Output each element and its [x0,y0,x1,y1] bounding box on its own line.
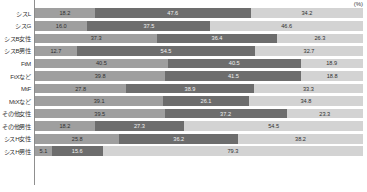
bar-segment: 18.2 [35,121,95,131]
bar-segment: 18.8 [301,71,363,81]
bar-segment: 26.1 [163,96,249,106]
bar-segment: 37.5 [87,21,210,31]
stacked-bar-chart: (%) シスL18.247.634.2シスG16.037.546.6シスB女性3… [0,0,367,192]
bar-segment-value: 37.5 [143,23,154,29]
bar-segment: 39.1 [35,96,163,106]
bar-segment-value: 38.9 [185,86,196,92]
bar-segment: 27.8 [35,84,126,94]
category-label: シスH女性 [0,135,34,142]
bar-segment: 26.3 [277,34,363,44]
bar-segment: 40.5 [35,59,168,69]
bar-segment: 18.9 [301,59,363,69]
bar-segment-value: 54.5 [161,48,172,54]
stacked-bar: 5.115.679.3 [34,146,363,156]
stacked-bar: 16.037.546.6 [34,21,363,31]
bar-segment: 23.3 [287,109,363,119]
chart-row: MtXなど39.126.134.8 [0,95,367,108]
bar-segment: 36.4 [157,34,276,44]
bar-segment-value: 27.8 [75,86,86,92]
chart-row: MtF27.838.933.3 [0,82,367,95]
chart-row: シスH女性25.836.238.2 [0,132,367,145]
bar-segment: 16.0 [35,21,87,31]
bar-segment-value: 34.8 [300,98,311,104]
bar-segment-value: 12.7 [50,48,61,54]
bar-segment-value: 36.4 [212,35,223,41]
bar-segment-value: 46.6 [281,23,292,29]
bar-segment: 39.8 [35,71,165,81]
chart-row: FtXなど39.841.518.8 [0,70,367,83]
bar-segment: 37.2 [165,109,287,119]
bar-segment: 54.5 [77,46,256,56]
bar-segment-value: 5.1 [39,148,47,154]
stacked-bar: 39.841.518.8 [34,71,363,81]
stacked-bar: 18.227.354.5 [34,121,363,131]
stacked-bar: 37.336.426.3 [34,34,363,44]
bar-segment: 32.7 [255,46,362,56]
bar-segment-value: 16.0 [56,23,67,29]
chart-row: その他女性39.537.223.3 [0,107,367,120]
bar-segment: 47.6 [95,8,251,18]
bar-segment-value: 18.2 [59,10,70,16]
bar-segment-value: 54.5 [268,123,279,129]
stacked-bar: 39.537.223.3 [34,109,363,119]
bar-segment-value: 39.5 [94,111,105,117]
bar-segment-value: 40.5 [229,60,240,66]
bar-segment-value: 27.3 [134,123,145,129]
bar-segment: 5.1 [35,146,52,156]
category-label: その他女性 [0,110,34,117]
category-label: シスG [0,22,34,29]
stacked-bar: 39.126.134.8 [34,96,363,106]
bar-segment-value: 38.2 [295,136,306,142]
stacked-bar: 18.247.634.2 [34,8,363,18]
plot-area: シスL18.247.634.2シスG16.037.546.6シスB女性37.33… [0,7,367,192]
chart-row: シスB男性12.754.532.7 [0,45,367,58]
bar-segment-value: 39.8 [95,73,106,79]
bar-segment-value: 41.5 [228,73,239,79]
category-label: FtM [0,60,34,67]
bar-segment-value: 18.9 [326,60,337,66]
bar-segment: 38.9 [126,84,254,94]
bar-segment: 37.3 [35,34,157,44]
chart-row: シスH男性5.115.679.3 [0,145,367,158]
bar-segment-value: 32.7 [304,48,315,54]
category-label: シスB男性 [0,47,34,54]
stacked-bar: 25.836.238.2 [34,134,363,144]
category-label: シスB女性 [0,35,34,42]
bar-segment: 27.3 [95,121,185,131]
stacked-bar: 12.754.532.7 [34,46,363,56]
chart-row: FtM40.540.518.9 [0,57,367,70]
bar-segment-value: 23.3 [319,111,330,117]
category-label: MtF [0,85,34,92]
bar-segment-value: 39.1 [94,98,105,104]
bar-segment-value: 33.3 [303,86,314,92]
bar-segment: 15.6 [52,146,103,156]
chart-row: その他男性18.227.354.5 [0,120,367,133]
bar-segment-value: 79.3 [227,148,238,154]
chart-row: シスB女性37.336.426.3 [0,32,367,45]
bar-segment: 41.5 [165,71,301,81]
category-label: その他男性 [0,123,34,130]
bar-segment: 18.2 [35,8,95,18]
bar-segment: 25.8 [35,134,119,144]
category-label: シスL [0,10,34,17]
bar-segment-value: 15.6 [72,148,83,154]
bar-segment: 46.6 [210,21,363,31]
chart-row: シスL18.247.634.2 [0,7,367,20]
bar-segment-value: 37.3 [91,35,102,41]
bar-segment-value: 26.1 [201,98,212,104]
bar-segment-value: 26.3 [314,35,325,41]
bar-segment: 12.7 [35,46,77,56]
bar-segment: 54.5 [184,121,363,131]
stacked-bar: 27.838.933.3 [34,84,363,94]
stacked-bar: 40.540.518.9 [34,59,363,69]
chart-row: シスG16.037.546.6 [0,20,367,33]
category-label: FtXなど [0,73,34,80]
bar-segment-value: 37.2 [220,111,231,117]
bar-segment-value: 47.6 [167,10,178,16]
bar-segment: 34.8 [249,96,363,106]
bar-segment-value: 34.2 [301,10,312,16]
bar-segment-value: 36.2 [173,136,184,142]
bar-segment: 38.2 [238,134,363,144]
bar-segment: 39.5 [35,109,165,119]
bar-segment: 79.3 [103,146,363,156]
